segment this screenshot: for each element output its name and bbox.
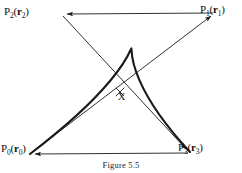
- figure-container: P2(r2) P1(r1) P0(r0) P3(r3) X Figure 5.5: [0, 0, 242, 173]
- bezier-curve: [30, 48, 190, 154]
- polygon-edge-p2-to-p3: [63, 16, 186, 149]
- polygon-edge-p1-to-p2: [67, 13, 213, 14]
- intersection-label-x: X: [118, 92, 125, 102]
- figure-caption: Figure 5.5: [0, 160, 242, 173]
- control-point-label-p2: P2(r2): [4, 6, 29, 17]
- bezier-figure-svg: [0, 0, 242, 173]
- polygon-edge-p3-to-p0: [35, 153, 188, 154]
- control-point-label-p0: P0(r0): [1, 143, 26, 154]
- control-point-label-p3: P3(r3): [178, 142, 203, 153]
- control-polygon: [31, 13, 213, 154]
- control-point-label-p1: P1(r1): [200, 4, 225, 15]
